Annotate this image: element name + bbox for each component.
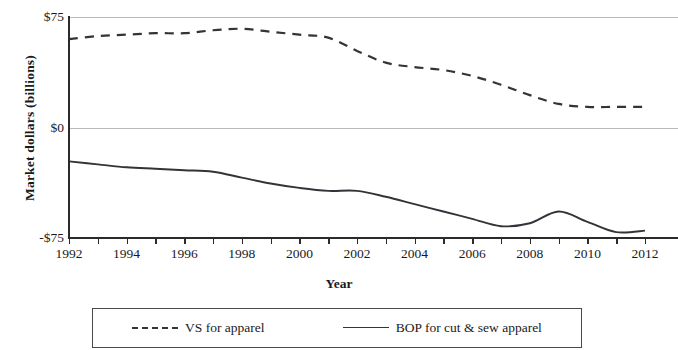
x-tick-label: 1992	[39, 246, 99, 262]
x-tick	[530, 238, 531, 244]
x-tick	[501, 238, 502, 244]
chart-legend: VS for apparelBOP for cut & sew apparel	[92, 308, 582, 348]
x-tick-label: 2004	[385, 246, 445, 262]
x-tick-label: 2002	[327, 246, 387, 262]
x-tick	[271, 238, 272, 244]
x-tick	[386, 238, 387, 244]
x-axis-title: Year	[0, 276, 678, 292]
y-axis-line	[68, 16, 70, 239]
gridline	[69, 128, 678, 129]
solid-line-icon	[343, 323, 389, 333]
x-axis-tick-labels: 1992199419961998200020022004200620082010…	[0, 246, 678, 266]
x-tick	[69, 238, 70, 244]
x-tick	[587, 238, 588, 244]
x-tick-label: 1994	[97, 246, 157, 262]
x-tick	[357, 238, 358, 244]
legend-item[interactable]: BOP for cut & sew apparel	[343, 320, 542, 336]
y-tick-label: $75	[6, 10, 64, 24]
legend-item[interactable]: VS for apparel	[132, 320, 264, 336]
series-line-1	[69, 29, 645, 107]
x-tick	[645, 238, 646, 244]
x-tick	[616, 238, 617, 244]
x-tick	[299, 238, 300, 244]
x-tick	[98, 238, 99, 244]
y-tick-label: $0	[6, 121, 64, 135]
y-axis-tick-labels: $75$0-$75	[0, 0, 64, 350]
x-tick	[242, 238, 243, 244]
legend-label: VS for apparel	[185, 320, 264, 336]
x-tick	[328, 238, 329, 244]
x-tick	[184, 238, 185, 244]
x-tick-label: 2000	[269, 246, 329, 262]
x-tick	[415, 238, 416, 244]
x-tick-label: 2012	[615, 246, 675, 262]
x-tick	[155, 238, 156, 244]
x-tick-label: 2008	[500, 246, 560, 262]
x-tick-label: 2006	[442, 246, 502, 262]
x-tick	[559, 238, 560, 244]
x-tick	[472, 238, 473, 244]
x-tick-label: 2010	[557, 246, 617, 262]
chart-figure: Market dollars (billions) $75$0-$75 1992…	[0, 0, 678, 350]
x-tick	[127, 238, 128, 244]
dashed-line-icon	[132, 323, 178, 333]
x-tick	[213, 238, 214, 244]
legend-label: BOP for cut & sew apparel	[396, 320, 542, 336]
x-tick-label: 1996	[154, 246, 214, 262]
gridline	[69, 17, 678, 18]
x-tick	[443, 238, 444, 244]
plot-area	[69, 17, 678, 238]
x-tick-label: 1998	[212, 246, 272, 262]
series-line-2	[69, 161, 645, 232]
x-axis-ticks	[0, 238, 678, 245]
